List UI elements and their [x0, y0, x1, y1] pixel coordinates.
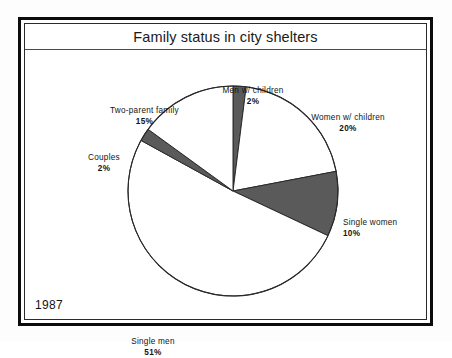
pie-label-two-parent-family-value: 15% — [77, 117, 212, 128]
title-band: Family status in city shelters — [25, 24, 426, 50]
pie-label-couples-value: 2% — [59, 164, 149, 175]
page-title: Family status in city shelters — [133, 29, 317, 45]
chart-frame: Family status in city shelters Men w/ ch… — [18, 17, 433, 326]
pie-label-men-with-children-text: Men w/ children — [222, 86, 283, 95]
pie-label-single-women: Single women 10% — [343, 218, 452, 239]
chart-frame-inner: Family status in city shelters Men w/ ch… — [24, 23, 427, 320]
pie-label-single-men-text: Single men — [131, 337, 174, 346]
pie-label-women-with-children: Women w/ children 20% — [283, 113, 413, 134]
pie-chart-plot-area: Men w/ children 2% Women w/ children 20%… — [25, 50, 426, 319]
pie-label-two-parent-family-text: Two-parent family — [110, 106, 179, 115]
pie-label-single-women-text: Single women — [343, 218, 397, 227]
pie-label-couples-text: Couples — [88, 153, 120, 162]
year-stamp: 1987 — [35, 298, 63, 312]
pie-label-women-with-children-text: Women w/ children — [311, 113, 385, 122]
pie-label-single-women-value: 10% — [343, 229, 452, 240]
pie-label-men-with-children: Men w/ children 2% — [193, 86, 313, 107]
pie-label-two-parent-family: Two-parent family 15% — [77, 106, 212, 127]
pie-label-women-with-children-value: 20% — [283, 124, 413, 135]
pie-label-single-men: Single men 51% — [93, 337, 213, 358]
pie-label-couples: Couples 2% — [59, 153, 149, 174]
pie-label-single-men-value: 51% — [93, 348, 213, 358]
